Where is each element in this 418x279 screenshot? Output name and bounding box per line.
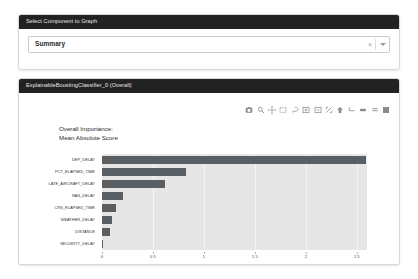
bar[interactable]	[102, 156, 366, 165]
x-axis-tick-label: 0.5	[150, 255, 156, 259]
bar-row[interactable]	[102, 214, 112, 226]
bar[interactable]	[102, 216, 112, 225]
bar[interactable]	[102, 192, 123, 201]
y-axis-label: DEP_DELAY	[72, 158, 95, 162]
bar-row[interactable]	[102, 154, 366, 166]
bar-row[interactable]	[102, 226, 110, 238]
graph-card: ExplainableBoostingClassifier_0 (Overall…	[18, 78, 400, 265]
select-component-card-body: Summary ×	[19, 29, 399, 62]
bar-row[interactable]	[102, 190, 123, 202]
y-axis-label: SECURITY_DELAY	[60, 242, 95, 246]
bar[interactable]	[102, 228, 110, 237]
y-axis-label: DISTANCE	[75, 230, 95, 234]
y-axis-label: NAS_DELAY	[72, 194, 95, 198]
y-axis-labels: DEP_DELAYPCT_ELAPSED_TIMELATE_AIRCRAFT_D…	[19, 154, 99, 250]
clear-icon[interactable]: ×	[365, 41, 375, 48]
chart-title: Overall Importance: Mean Absolute Score	[59, 125, 118, 142]
x-axis-tick-label: 2	[305, 255, 307, 259]
x-axis-tick-label: 0	[101, 255, 103, 259]
y-axis-label: CRS_ELAPSED_TIME	[55, 206, 95, 210]
x-axis-tick-label: 1	[203, 255, 205, 259]
bar-series	[102, 154, 367, 250]
overall-importance-chart: Overall Importance: Mean Absolute Score …	[19, 93, 399, 265]
x-axis-ticks: 00.511.522.5	[102, 252, 367, 262]
plot-area	[102, 154, 367, 250]
select-component-card: Select Component to Graph Summary ×	[18, 14, 400, 70]
bar-row[interactable]	[102, 238, 103, 250]
component-select[interactable]: Summary ×	[28, 36, 390, 53]
select-component-card-header: Select Component to Graph	[19, 15, 399, 29]
x-axis-tick-label: 2.5	[354, 255, 360, 259]
bar[interactable]	[102, 180, 165, 189]
chevron-down-icon[interactable]	[376, 43, 389, 46]
y-axis-label: PCT_ELAPSED_TIME	[55, 170, 95, 174]
y-axis-label: WEATHER_DELAY	[61, 218, 95, 222]
component-select-value: Summary	[29, 41, 365, 48]
x-axis-tick-label: 1.5	[252, 255, 258, 259]
bar[interactable]	[102, 204, 116, 213]
y-axis-label: LATE_AIRCRAFT_DELAY	[49, 182, 95, 186]
bar[interactable]	[102, 240, 103, 249]
graph-card-body: Overall Importance: Mean Absolute Score …	[19, 93, 399, 265]
graph-card-header: ExplainableBoostingClassifier_0 (Overall…	[19, 79, 399, 93]
bar[interactable]	[102, 168, 186, 177]
bar-row[interactable]	[102, 166, 186, 178]
bar-row[interactable]	[102, 202, 116, 214]
app-page: Select Component to Graph Summary × Expl…	[0, 0, 418, 279]
chevron-down-glyph	[380, 43, 386, 46]
bar-row[interactable]	[102, 178, 165, 190]
